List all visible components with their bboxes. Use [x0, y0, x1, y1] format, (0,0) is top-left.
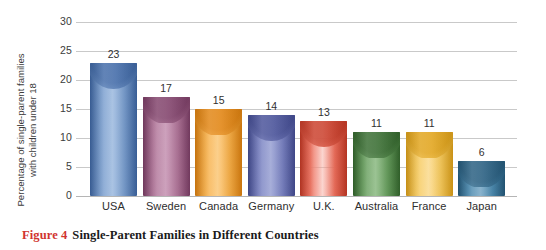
bar-australia: [353, 132, 400, 196]
bar-value-label: 11: [353, 117, 400, 129]
bar-uk: [300, 121, 347, 196]
y-axis-tick-label: 20: [46, 73, 72, 85]
bar-value-label: 17: [143, 82, 190, 94]
bar-value-label: 15: [195, 94, 242, 106]
chart-plot-area: Percentage of single-parent families wit…: [0, 0, 546, 210]
y-axis-tick: 20: [46, 73, 72, 87]
figure-number: Figure 4: [22, 228, 67, 242]
bar-top-highlight: [406, 132, 453, 158]
x-axis-label-japan: Japan: [448, 200, 515, 212]
y-axis-tick: 10: [46, 131, 72, 145]
bar-top-highlight: [353, 132, 400, 158]
y-axis-tick: 25: [46, 44, 72, 58]
y-axis-title: Percentage of single-parent families wit…: [15, 50, 39, 210]
bar-top-highlight: [195, 109, 242, 135]
bar-top-highlight: [143, 97, 190, 123]
gridline: [76, 22, 517, 23]
bar-top-highlight: [90, 63, 137, 89]
figure-container: Percentage of single-parent families wit…: [0, 0, 546, 250]
gridline: [76, 51, 517, 52]
figure-title: Single-Parent Families in Different Coun…: [72, 228, 318, 242]
bar-value-label: 23: [90, 48, 137, 60]
bar-usa: [90, 63, 137, 196]
bar-sweden: [143, 97, 190, 196]
bar-canada: [195, 109, 242, 196]
bar-value-label: 13: [300, 106, 347, 118]
bar-top-highlight: [248, 115, 295, 141]
y-axis-tick-label: 0: [46, 189, 72, 201]
figure-caption: Figure 4Single-Parent Families in Differ…: [22, 228, 319, 243]
y-axis-tick-label: 25: [46, 44, 72, 56]
y-axis-title-line2: with children under 18: [27, 83, 38, 177]
bar-top-highlight: [458, 161, 505, 187]
bar-value-label: 11: [406, 117, 453, 129]
bar-japan: [458, 161, 505, 196]
bar-germany: [248, 115, 295, 196]
y-axis-tick-label: 10: [46, 131, 72, 143]
bar-value-label: 14: [248, 100, 295, 112]
bar-france: [406, 132, 453, 196]
y-axis-tick: 5: [46, 160, 72, 174]
gridline: [76, 196, 517, 197]
gridline: [76, 80, 517, 81]
y-axis-tick-label: 5: [46, 160, 72, 172]
y-axis-tick: 15: [46, 102, 72, 116]
y-axis-tick-label: 15: [46, 102, 72, 114]
y-axis-tick: 0: [46, 189, 72, 203]
y-axis-title-line1: Percentage of single-parent families: [15, 53, 26, 206]
bar-value-label: 6: [458, 146, 505, 158]
y-axis-tick: 30: [46, 15, 72, 29]
y-axis-tick-label: 30: [46, 15, 72, 27]
bar-top-highlight: [300, 121, 347, 147]
